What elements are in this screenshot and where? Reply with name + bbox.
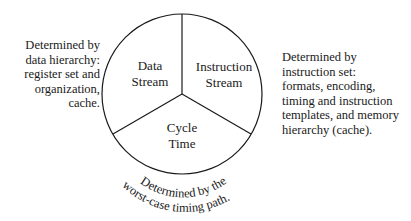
left-annotation: Determined by data hierarchy: register s… xyxy=(0,38,100,111)
segment-instruction-stream: Instruction Stream xyxy=(184,59,264,90)
segment-cycle-time: Cycle Time xyxy=(147,120,217,151)
segment-data-stream: Data Stream xyxy=(115,58,185,89)
right-annotation: Determined by instruction set: formats, … xyxy=(282,50,411,137)
